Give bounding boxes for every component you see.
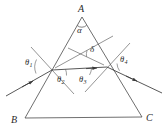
angle-arcs <box>35 51 120 76</box>
emergent-ray-arrow <box>126 76 137 81</box>
apex-angle-label-alpha: α <box>77 26 82 35</box>
angle-label-theta4: θ4 <box>120 55 127 65</box>
vertex-label-b: B <box>11 115 17 125</box>
vertex-label-c: C <box>146 113 153 123</box>
theta1-subscript: 1 <box>29 62 32 68</box>
figure-canvas <box>0 0 165 139</box>
prism-triangle <box>25 17 142 118</box>
theta4-subscript: 4 <box>124 59 127 65</box>
vertex-label-a: A <box>78 4 84 14</box>
delta-arc <box>86 51 87 57</box>
triangle-side-ac <box>82 17 142 117</box>
ray-extension-lines <box>55 36 113 68</box>
incident-ray-extension <box>55 36 113 68</box>
theta3-arc <box>90 69 92 75</box>
theta2-subscript: 2 <box>61 79 64 85</box>
internal-ray-arrow <box>86 68 97 69</box>
internal-ray <box>52 67 107 70</box>
incident-ray-arrow <box>22 81 33 87</box>
theta3-subscript: 3 <box>83 79 86 85</box>
angle-label-theta1: θ1 <box>25 58 32 68</box>
angle-label-theta3: θ3 <box>79 75 86 85</box>
theta2-arc <box>66 69 67 75</box>
angle-label-theta2: θ2 <box>57 75 64 85</box>
prism-refraction-figure: A B C α δ θ1 θ2 θ3 θ4 <box>0 0 165 139</box>
triangle-side-ab <box>25 17 82 118</box>
entry-face-normal <box>31 47 74 94</box>
theta1-arc <box>35 60 37 74</box>
triangle-side-bc <box>25 117 142 118</box>
deviation-angle-label-delta: δ <box>90 45 94 54</box>
